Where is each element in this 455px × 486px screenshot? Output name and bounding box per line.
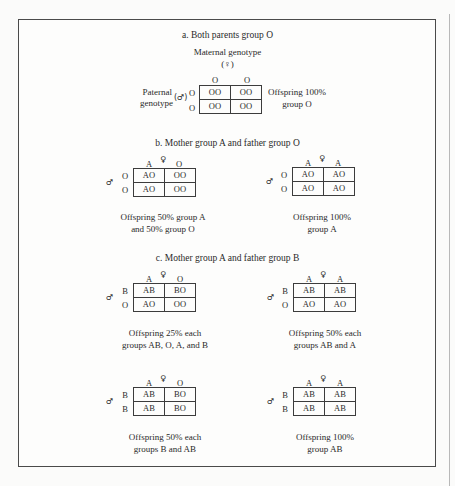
- punnett-cell: AB: [325, 388, 356, 402]
- row-allele-label: O: [186, 103, 198, 113]
- row-allele-label: B: [119, 404, 131, 414]
- offspring-result: Offspring 50% group A: [103, 212, 223, 223]
- punnett-square-c3: AB BO AB BO: [133, 387, 196, 416]
- offspring-result: Offspring 25% each: [103, 328, 227, 339]
- punnett-square-b-left: AO OO AO OO: [133, 168, 196, 197]
- row-allele-label: B: [119, 286, 131, 296]
- row-allele-label: O: [119, 185, 131, 195]
- punnett-cell: OO: [231, 86, 262, 100]
- punnett-cell: BO: [165, 402, 196, 416]
- offspring-result: and 50% group O: [103, 224, 223, 235]
- punnett-cell: AB: [134, 388, 165, 402]
- paternal-genotype-label: Paternal: [132, 87, 172, 98]
- male-symbol: ♂: [266, 177, 273, 187]
- male-symbol: ♂: [106, 293, 113, 303]
- col-allele-label: O: [241, 75, 253, 85]
- offspring-result: group A: [262, 224, 382, 235]
- row-allele-label: O: [186, 88, 198, 98]
- male-symbol: ♂: [106, 178, 113, 188]
- punnett-cell: OO: [165, 298, 196, 312]
- punnett-cell: AB: [325, 284, 356, 298]
- punnett-cell: AB: [294, 402, 325, 416]
- row-allele-label: O: [119, 300, 131, 310]
- punnett-square-a: OO OO OO OO: [199, 85, 262, 114]
- punnett-cell: OO: [200, 86, 231, 100]
- punnett-cell: AO: [294, 298, 325, 312]
- punnett-cell: AO: [134, 298, 165, 312]
- female-symbol: ♀: [160, 374, 166, 384]
- punnett-cell: BO: [165, 388, 196, 402]
- maternal-genotype-label: Maternal genotype: [0, 47, 455, 58]
- offspring-result: Offspring 100%: [262, 212, 382, 223]
- section-c-title: c. Mother group A and father group B: [0, 253, 455, 264]
- punnett-cell: BO: [165, 284, 196, 298]
- offspring-result: groups AB, O, A, and B: [103, 340, 227, 351]
- punnett-cell: OO: [200, 100, 231, 114]
- punnett-cell: AO: [134, 183, 165, 197]
- row-allele-label: B: [279, 286, 291, 296]
- row-allele-label: B: [119, 390, 131, 400]
- offspring-result: groups AB and A: [263, 340, 387, 351]
- female-symbol: ♀: [160, 155, 166, 165]
- punnett-cell: AO: [293, 168, 324, 182]
- punnett-square-c1: AB BO AO OO: [133, 283, 196, 312]
- section-b-title: b. Mother group A and father group O: [0, 138, 455, 149]
- offspring-result: Offspring 100%: [263, 432, 387, 443]
- punnett-square-c2: AB AB AO AO: [293, 283, 356, 312]
- row-allele-label: O: [119, 171, 131, 181]
- female-symbol: ♀: [319, 154, 325, 164]
- punnett-cell: AO: [324, 168, 355, 182]
- punnett-cell: OO: [231, 100, 262, 114]
- punnett-cell: OO: [165, 169, 196, 183]
- offspring-result: Offspring 50% each: [103, 432, 227, 443]
- female-symbol: ♀: [320, 270, 326, 280]
- punnett-cell: AB: [134, 284, 165, 298]
- offspring-result: Offspring 50% each: [263, 328, 387, 339]
- row-allele-label: B: [279, 390, 291, 400]
- page-edge-line: [449, 14, 450, 486]
- male-symbol: ♂: [267, 397, 274, 407]
- row-allele-label: O: [278, 184, 290, 194]
- female-symbol: ♀: [160, 270, 166, 280]
- female-symbol: (♀): [0, 59, 455, 70]
- punnett-cell: AB: [294, 284, 325, 298]
- punnett-cell: AB: [134, 402, 165, 416]
- offspring-result: group AB: [263, 444, 387, 455]
- punnett-cell: AB: [294, 388, 325, 402]
- offspring-result: groups B and AB: [103, 444, 227, 455]
- punnett-cell: AO: [325, 298, 356, 312]
- section-a-title: a. Both parents group O: [0, 30, 455, 41]
- row-allele-label: O: [279, 300, 291, 310]
- row-allele-label: O: [278, 170, 290, 180]
- punnett-cell: OO: [165, 183, 196, 197]
- punnett-cell: AO: [293, 182, 324, 196]
- row-allele-label: B: [279, 404, 291, 414]
- punnett-square-b-right: AO AO AO AO: [292, 167, 355, 196]
- female-symbol: ♀: [320, 374, 326, 384]
- male-symbol: ♂: [267, 293, 274, 303]
- male-symbol: ♂: [106, 397, 113, 407]
- punnett-cell: AO: [134, 169, 165, 183]
- punnett-cell: AB: [325, 402, 356, 416]
- offspring-result: group O: [265, 99, 329, 110]
- punnett-square-c4: AB AB AB AB: [293, 387, 356, 416]
- col-allele-label: O: [209, 75, 221, 85]
- paternal-genotype-label: genotype: [129, 98, 173, 109]
- punnett-cell: AO: [324, 182, 355, 196]
- offspring-result: Offspring 100%: [265, 87, 329, 98]
